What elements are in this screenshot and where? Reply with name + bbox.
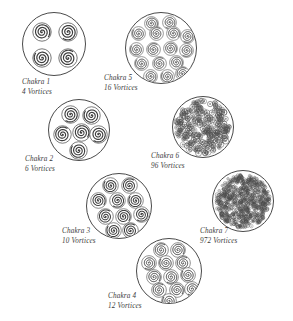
chakra-5-vortex — [144, 16, 159, 31]
chakra-5-vortex — [166, 26, 181, 41]
chakra-4-vortex — [180, 267, 196, 283]
chakra-1-caption: Chakra 14 Vortices — [22, 78, 52, 97]
vortex-spiral-icon — [58, 48, 78, 68]
chakra-2-vortex — [61, 105, 80, 124]
chakra-5-vortex — [129, 42, 144, 57]
vortex-spiral-icon — [109, 192, 126, 209]
chakra-4-vortex — [161, 293, 177, 304]
vortex-spiral-icon — [146, 42, 161, 57]
chakra-3-vortex — [97, 208, 114, 225]
vortex-spiral-icon — [153, 242, 169, 258]
chakra-2-vortex — [69, 141, 88, 160]
chakra-4-vortex — [163, 269, 179, 285]
chakra-5-name: Chakra 5 — [104, 74, 138, 84]
chakra-5-disc — [125, 12, 197, 84]
chakra-3-vortex-count: 10 Vortices — [62, 237, 96, 247]
chakra-5-group: Chakra 516 Vortices — [0, 0, 293, 321]
chakra-3-vortex — [102, 177, 119, 194]
chakra-4-caption: Chakra 412 Vortices — [108, 292, 142, 311]
chakra-4-group: Chakra 412 Vortices — [0, 0, 293, 321]
vortex-spiral-icon — [180, 29, 195, 44]
chakra-4-name: Chakra 4 — [108, 292, 142, 302]
vortex-spiral-icon — [129, 42, 144, 57]
vortex-spiral-icon — [158, 255, 174, 271]
vortex-spiral-icon — [152, 56, 167, 71]
chakra-4-disc — [136, 238, 202, 304]
vortex-spiral-icon — [144, 16, 159, 31]
chakra-4-vortex — [158, 255, 174, 271]
chakra-6-caption: Chakra 696 Vortices — [151, 152, 185, 171]
vortex-spiral-icon — [149, 26, 164, 41]
vortex-spiral-icon — [169, 282, 185, 298]
chakra-2-vortex — [89, 125, 108, 144]
chakra-1-vortex-count: 4 Vortices — [22, 88, 52, 98]
chakra-3-caption: Chakra 310 Vortices — [62, 227, 96, 246]
chakra-7-name: Chakra 7 — [200, 227, 238, 237]
chakra-3-vortex — [133, 206, 150, 223]
chakra-vortex-diagram: Chakra 14 VorticesChakra 26 VorticesChak… — [0, 0, 293, 321]
vortex-spiral-icon — [179, 43, 194, 58]
vortex-spiral-icon — [122, 222, 139, 239]
chakra-4-vortex — [141, 255, 157, 271]
chakra-3-group: Chakra 310 Vortices — [0, 0, 293, 321]
chakra-1-vortex — [32, 22, 52, 42]
vortex-speckle-field — [173, 97, 233, 157]
chakra-1-vortex — [58, 22, 78, 42]
vortex-spiral-icon — [162, 15, 177, 30]
chakra-3-vortex — [105, 222, 122, 239]
vortex-spiral-icon — [32, 22, 52, 42]
chakra-6-vortex-count: 96 Vortices — [151, 162, 185, 172]
chakra-5-vortex — [180, 29, 195, 44]
vortex-spiral-icon — [175, 66, 190, 81]
vortex-spiral-icon — [143, 69, 158, 84]
chakra-5-vortex — [175, 66, 190, 81]
chakra-5-vortex — [169, 55, 184, 70]
chakra-5-caption: Chakra 516 Vortices — [104, 74, 138, 93]
chakra-4-vortex — [169, 282, 185, 298]
chakra-7-disc — [212, 170, 274, 232]
chakra-1-group: Chakra 14 Vortices — [0, 0, 293, 321]
chakra-3-vortex — [90, 192, 107, 209]
chakra-6-group: Chakra 696 Vortices — [0, 0, 293, 321]
vortex-spiral-icon — [32, 48, 52, 68]
chakra-1-vortex — [32, 48, 52, 68]
vortex-spiral-icon — [146, 269, 162, 285]
vortex-spiral-icon — [72, 123, 91, 142]
chakra-1-vortex — [58, 48, 78, 68]
chakra-5-vortex — [162, 15, 177, 30]
chakra-5-vortex — [146, 42, 161, 57]
vortex-spiral-icon — [161, 293, 177, 304]
vortex-spiral-icon — [102, 177, 119, 194]
chakra-5-vortex-count: 16 Vortices — [104, 84, 138, 94]
chakra-4-vortex — [153, 242, 169, 258]
chakra-7-vortex-count: 972 Vortices — [200, 237, 238, 247]
chakra-2-caption: Chakra 26 Vortices — [25, 155, 55, 174]
chakra-3-vortex — [109, 192, 126, 209]
vortex-spiral-icon — [61, 105, 80, 124]
chakra-3-vortex — [122, 222, 139, 239]
vortex-spiral-icon — [170, 242, 186, 258]
chakra-3-name: Chakra 3 — [62, 227, 96, 237]
chakra-7-group: Chakra 7972 Vortices — [0, 0, 293, 321]
vortex-spiral-icon — [166, 26, 181, 41]
chakra-3-vortex — [121, 177, 138, 194]
chakra-5-vortex — [152, 56, 167, 71]
chakra-1-name: Chakra 1 — [22, 78, 52, 88]
chakra-2-disc — [48, 99, 110, 161]
chakra-3-vortex — [127, 192, 144, 209]
chakra-4-vortex-count: 12 Vortices — [108, 302, 142, 312]
vortex-spiral-icon — [163, 41, 178, 56]
chakra-4-vortex — [175, 255, 191, 271]
chakra-5-vortex — [160, 69, 175, 84]
chakra-1-disc — [22, 12, 86, 76]
vortex-spiral-icon — [133, 206, 150, 223]
chakra-5-vortex — [143, 69, 158, 84]
chakra-4-vortex — [151, 282, 167, 298]
chakra-5-vortex — [134, 56, 149, 71]
vortex-spiral-icon — [121, 177, 138, 194]
chakra-2-vortex — [72, 123, 91, 142]
vortex-spiral-icon — [184, 281, 200, 297]
chakra-5-vortex — [131, 26, 146, 41]
chakra-2-vortex — [53, 125, 72, 144]
vortex-spiral-icon — [89, 125, 108, 144]
